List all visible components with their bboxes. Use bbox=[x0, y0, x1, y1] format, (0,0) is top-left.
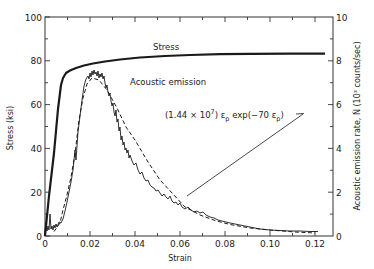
x-tick-label: 0.06 bbox=[170, 239, 190, 249]
y-left-tick-label: 0 bbox=[36, 232, 42, 242]
y-right-tick-label: 4 bbox=[336, 144, 342, 154]
x-tick-labels: 0 0.02 0.04 0.06 0.08 0.10 0.12 bbox=[42, 239, 325, 249]
formula-part: exp(−70 ε bbox=[230, 110, 277, 120]
x-tick-label: 0.10 bbox=[260, 239, 280, 249]
x-tick-label: 0.08 bbox=[215, 239, 235, 249]
y-left-tick-label: 20 bbox=[31, 188, 43, 198]
x-tick-label: 0.02 bbox=[80, 239, 100, 249]
y-left-axis-title: Stress (ksi) bbox=[6, 106, 15, 150]
y-right-ticks bbox=[328, 39, 333, 214]
fit-curve-dashed bbox=[54, 78, 315, 233]
y-right-tick-label: 0 bbox=[336, 232, 342, 242]
formula-part: (1.44 × 10 bbox=[165, 110, 211, 120]
y-left-tick-labels: 0 20 40 60 80 100 bbox=[25, 13, 42, 242]
formula-label: (1.44 × 107) εp exp(−70 εp) bbox=[165, 108, 284, 123]
y-left-tick-label: 100 bbox=[25, 13, 42, 23]
acoustic-emission-label: Acoustic emission bbox=[130, 77, 206, 87]
y-left-tick-label: 60 bbox=[31, 100, 43, 110]
y-right-tick-label: 8 bbox=[336, 56, 342, 66]
y-right-tick-label: 6 bbox=[336, 100, 342, 110]
y-right-axis-title: Acoustic emission rate, Ṅ (10³ counts/se… bbox=[352, 41, 362, 210]
formula-part: ) bbox=[280, 110, 283, 120]
stress-label: Stress bbox=[153, 42, 180, 52]
acoustic-emission-curve bbox=[45, 70, 318, 232]
x-tick-label: 0.04 bbox=[125, 239, 145, 249]
annotation-pointer bbox=[187, 114, 303, 196]
plot-frame bbox=[45, 17, 333, 236]
x-axis-title: Strain bbox=[168, 254, 192, 263]
x-tick-label: 0 bbox=[42, 239, 48, 249]
y-right-tick-labels: 0 2 4 6 8 10 bbox=[336, 13, 348, 242]
y-right-tick-label: 2 bbox=[336, 188, 342, 198]
chart: 0 0.02 0.04 0.06 0.08 0.10 0.12 0 20 40 … bbox=[0, 0, 374, 269]
annotation-pointer-tick bbox=[296, 114, 304, 115]
y-left-tick-label: 80 bbox=[31, 56, 43, 66]
formula-part: ) ε bbox=[215, 110, 226, 120]
x-tick-label: 0.12 bbox=[305, 239, 325, 249]
y-left-tick-label: 40 bbox=[31, 144, 43, 154]
y-right-tick-label: 10 bbox=[336, 13, 348, 23]
